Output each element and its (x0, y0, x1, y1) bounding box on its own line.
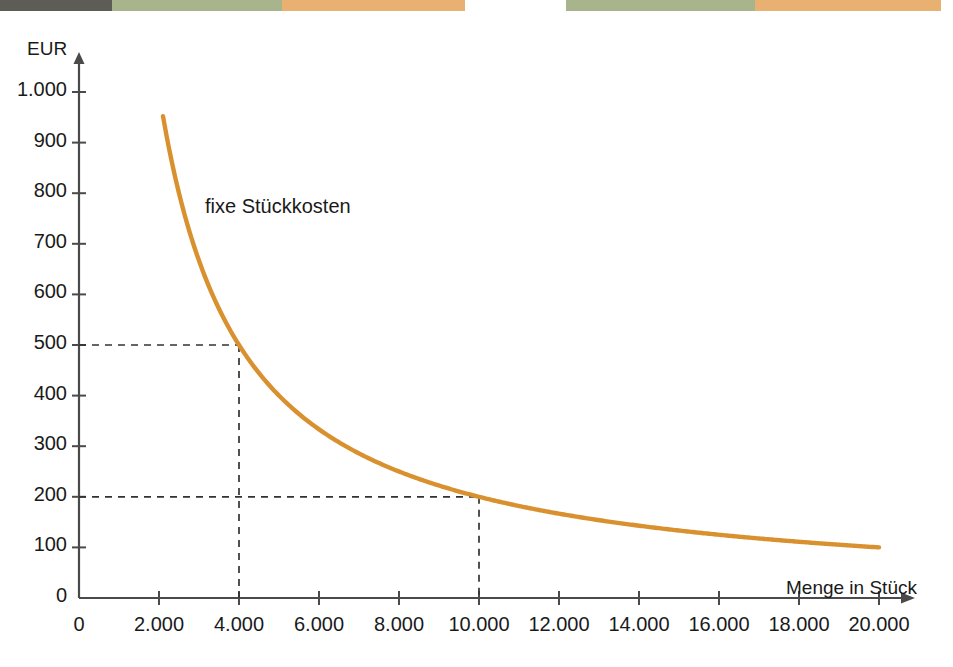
chart-page: EUR Menge in Stück fixe Stückkosten 0100… (0, 0, 953, 667)
y-tick-label-400: 400 (34, 382, 67, 405)
series-line-fixe-stueckkosten (163, 116, 879, 547)
colour-band-segment-3 (465, 0, 566, 11)
colour-band-segment-6 (941, 0, 953, 11)
y-tick-label-700: 700 (34, 230, 67, 253)
fixed-unit-cost-chart: EUR Menge in Stück fixe Stückkosten 0100… (0, 11, 953, 667)
colour-band-segment-1 (112, 0, 282, 11)
colour-band-segment-5 (755, 0, 941, 11)
guide-lines-group (79, 345, 479, 598)
y-axis-title: EUR (27, 38, 67, 60)
colour-band-segment-2 (282, 0, 465, 11)
axes-group (72, 52, 915, 605)
y-tick-label-300: 300 (34, 432, 67, 455)
colour-band-segment-4 (566, 0, 755, 11)
y-tick-label-0: 0 (56, 584, 67, 607)
x-axis-title: Menge in Stück (786, 577, 917, 599)
y-tick-label-900: 900 (34, 129, 67, 152)
y-tick-label-500: 500 (34, 331, 67, 354)
y-tick-label-100: 100 (34, 533, 67, 556)
colour-band-segment-0 (0, 0, 112, 11)
plot-area (0, 11, 953, 667)
data-series-group (163, 116, 879, 547)
series-label-fixe-stueckkosten: fixe Stückkosten (205, 195, 351, 218)
y-tick-label-1000: 1.000 (17, 78, 67, 101)
y-axis-arrowhead (74, 52, 85, 64)
y-tick-label-200: 200 (34, 483, 67, 506)
y-tick-label-800: 800 (34, 179, 67, 202)
page-edge-colour-band (0, 0, 953, 11)
y-tick-label-600: 600 (34, 280, 67, 303)
x-tick-label-20000: 20.000 (829, 613, 929, 636)
